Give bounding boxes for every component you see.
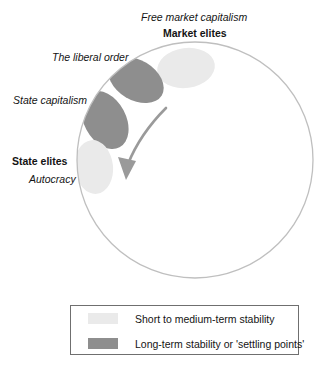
legend-label-short-term: Short to medium-term stability: [135, 313, 274, 325]
label-state-elites: State elites: [12, 156, 67, 168]
dark-gray-swatch: [88, 338, 118, 349]
legend-item-long-term: Long-term stability or 'settling points': [71, 331, 298, 356]
light-gray-swatch: [88, 313, 118, 324]
label-liberal-order: The liberal order: [52, 52, 128, 64]
legend: Short to medium-term stability Long-term…: [70, 305, 299, 355]
legend-item-short-term: Short to medium-term stability: [71, 306, 298, 331]
clockwise-trend-arrow-shaft: [128, 108, 166, 164]
label-autocracy: Autocracy: [29, 174, 76, 186]
legend-label-long-term: Long-term stability or 'settling points': [135, 338, 304, 350]
clockwise-trend-arrow-head: [118, 157, 136, 180]
market-elites-zone: [154, 44, 217, 92]
label-free-market-capitalism: Free market capitalism: [141, 12, 247, 24]
diagram-canvas: Free market capitalism Market elites The…: [0, 0, 323, 373]
label-market-elites: Market elites: [163, 28, 227, 40]
label-state-capitalism: State capitalism: [13, 95, 87, 107]
